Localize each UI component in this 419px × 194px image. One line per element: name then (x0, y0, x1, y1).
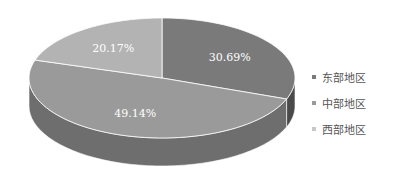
legend-swatch-icon (312, 75, 316, 79)
slice-label-west: 20.17% (92, 42, 134, 55)
legend-label: 中部地区 (322, 95, 366, 111)
legend-item-east: 东部地区 (312, 64, 366, 90)
legend: 东部地区 中部地区 西部地区 (312, 64, 366, 142)
slice-label-central: 49.14% (114, 107, 156, 120)
legend-label: 东部地区 (322, 69, 366, 85)
legend-item-central: 中部地区 (312, 90, 366, 116)
slice-label-east: 30.69% (209, 51, 251, 64)
pie-slices (29, 18, 295, 138)
pie-chart: 30.69%49.14%20.17% (0, 0, 300, 194)
legend-item-west: 西部地区 (312, 116, 366, 142)
legend-swatch-icon (312, 101, 316, 105)
legend-label: 西部地区 (322, 121, 366, 137)
legend-swatch-icon (312, 127, 316, 131)
